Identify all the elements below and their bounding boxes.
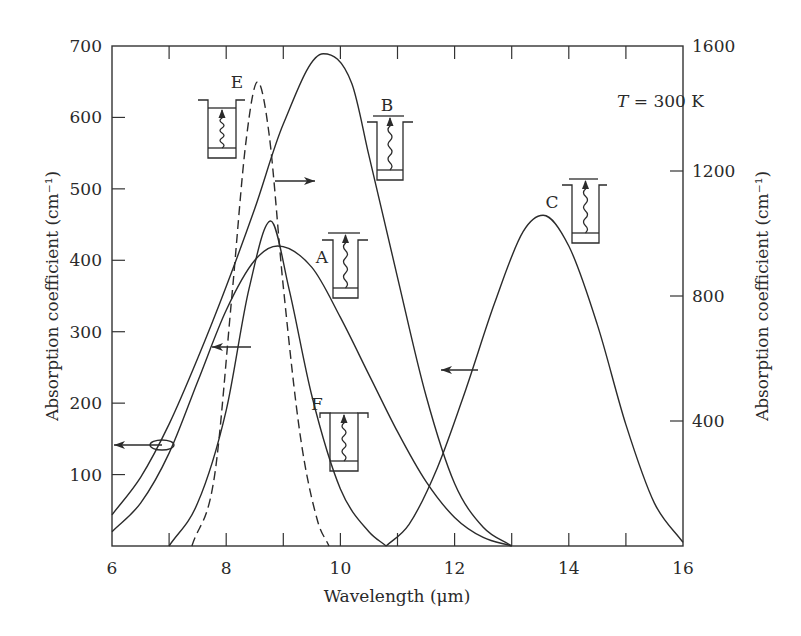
ticks: [112, 46, 683, 546]
axis-arrow-right-2: [275, 177, 315, 185]
x-tick-label: 8: [221, 558, 232, 578]
y-left-tick-label: 600: [70, 107, 102, 127]
quantum-well-inset-E: [198, 100, 245, 158]
quantum-well-inset-F: [320, 413, 368, 471]
x-tick-label: 10: [330, 558, 352, 578]
curve-label-A: A: [315, 247, 329, 267]
well-outline: [367, 122, 413, 180]
tick-labels: 6810121416100200300400500600700400800120…: [70, 36, 736, 578]
curve-B: [112, 54, 512, 546]
y-left-tick-label: 300: [70, 322, 102, 342]
x-axis-title: Wavelength (μm): [324, 586, 471, 606]
chart: 6810121416100200300400500600700400800120…: [0, 0, 801, 636]
well-outline: [562, 185, 607, 243]
x-tick-label: 6: [107, 558, 118, 578]
y-axis-title-left: Absorption coefficient (cm⁻¹): [42, 171, 62, 422]
well-outline: [322, 240, 368, 298]
curves: [112, 54, 683, 546]
quantum-well-inset-B: [367, 116, 413, 180]
quantum-well-inset-C: [562, 179, 607, 243]
quantum-well-insets: [198, 100, 607, 471]
temperature-value: = 300 K: [628, 91, 704, 111]
x-tick-label: 16: [672, 558, 694, 578]
temperature-annotation: T = 300 K: [617, 91, 704, 111]
arrowhead-up-icon: [582, 180, 589, 189]
axis-arrow-left-0: [114, 440, 174, 450]
y-right-tick-label: 800: [692, 286, 724, 306]
y-left-tick-label: 500: [70, 179, 102, 199]
quantum-well-inset-A: [322, 233, 368, 298]
curve-label-C: C: [545, 192, 558, 212]
y-axis-title-right: Absorption coefficient (cm⁻¹): [752, 171, 772, 422]
y-right-tick-label: 400: [692, 411, 724, 431]
curve-label-B: B: [381, 95, 394, 115]
curve-C: [386, 215, 683, 546]
y-left-tick-label: 400: [70, 250, 102, 270]
y-right-tick-label: 1200: [692, 161, 735, 181]
y-left-tick-label: 100: [70, 465, 102, 485]
x-tick-label: 12: [444, 558, 466, 578]
arrowhead-up-icon: [341, 414, 348, 423]
axis-arrow-left-1: [212, 343, 251, 351]
axis-arrow-left-3: [441, 366, 478, 374]
y-left-tick-label: 200: [70, 393, 102, 413]
y-left-tick-label: 700: [70, 36, 102, 56]
curve-F: [169, 221, 386, 546]
arrowhead-up-icon: [342, 234, 349, 243]
y-right-tick-label: 1600: [692, 36, 735, 56]
curve-label-F: F: [311, 394, 323, 414]
curve-label-E: E: [231, 72, 243, 92]
curve-E: [192, 82, 329, 546]
arrowhead-up-icon: [219, 109, 226, 118]
x-tick-label: 14: [558, 558, 580, 578]
plot-frame: [112, 46, 683, 546]
arrowhead-up-icon: [387, 117, 394, 126]
